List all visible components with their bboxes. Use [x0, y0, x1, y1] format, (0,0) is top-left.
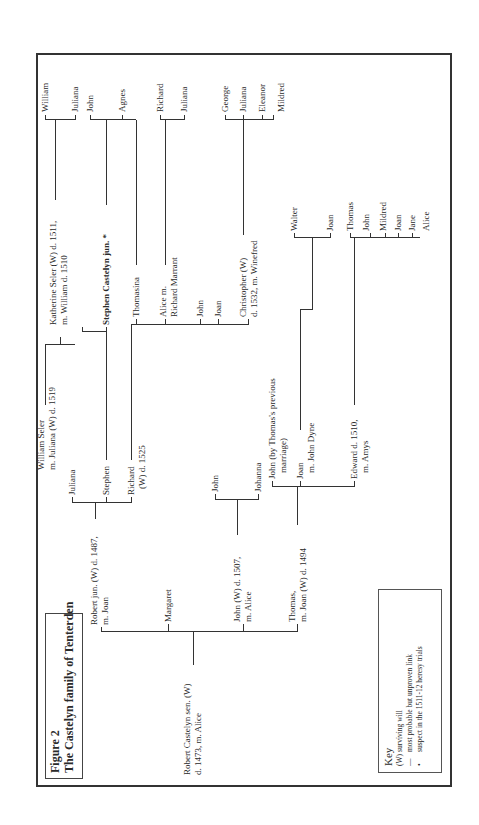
connector [106, 120, 107, 205]
person-john-1507: John (W) d. 1507, m. Alice [232, 557, 253, 622]
connector [398, 233, 399, 238]
person-jane-e: Jane [407, 215, 418, 231]
person-joan-dyne: Joan m. John Dyne [295, 423, 316, 479]
connector [258, 494, 259, 500]
genealogy-page: Figure 2 The Castelyn family of Tenterde… [0, 0, 479, 825]
connector [370, 233, 371, 238]
person-thomas: Thomas, m. Joan (W) d. 1494 [287, 548, 308, 622]
connector [300, 481, 301, 487]
person-eleanor: Eleanor [257, 84, 268, 112]
connector [72, 502, 131, 503]
key-item-link: —most probable but unproven link [405, 596, 415, 766]
connector [136, 120, 137, 265]
figure-title: The Castelyn family of Tenterden [62, 619, 76, 773]
connector [55, 120, 56, 200]
connector [165, 120, 166, 265]
person-thomasina: Thomasina [131, 277, 142, 317]
person-walter: Walter [289, 207, 300, 231]
connector [75, 115, 76, 120]
connector [106, 332, 107, 460]
connector [72, 497, 73, 503]
person-joan-d: Joan [325, 215, 336, 232]
connector [184, 115, 185, 120]
person-christopher: Christopher (W) d. 1532, m. Winefred [238, 241, 259, 317]
connector [243, 115, 244, 120]
connector [237, 500, 238, 535]
connector [131, 324, 248, 325]
connector [312, 238, 313, 310]
connector [101, 627, 102, 632]
person-mildred-e: Mildred [378, 202, 389, 231]
connector [90, 119, 122, 120]
connector [60, 337, 61, 345]
connector [193, 632, 194, 665]
person-stephen-castelyn-jun: Stephen Castelyn jun. * [101, 234, 112, 325]
person-katherine-seler: Katherine Seler (W) d. 1511, m. William … [48, 221, 69, 325]
connector [82, 327, 83, 332]
key-item-suspect: •suspect in the 1511-12 heresy trials [415, 596, 425, 766]
connector [200, 319, 201, 325]
person-john: John [195, 300, 206, 317]
dash-symbol: — [405, 752, 415, 766]
connector [297, 624, 298, 632]
person-george: George [220, 86, 231, 112]
bullet-symbol: • [415, 752, 425, 766]
person-juliana-c: Juliana [238, 87, 249, 113]
connector [350, 233, 351, 238]
person-william: William [40, 83, 51, 112]
connector [106, 497, 107, 503]
person-agnes: Agnes [117, 89, 128, 112]
connector [354, 481, 355, 487]
connector [45, 119, 75, 120]
person-johanna: Johanna [253, 463, 264, 493]
connector [272, 481, 273, 487]
connector [330, 233, 331, 238]
key-box: Key (W)surviving will —most probable but… [378, 589, 442, 773]
person-juliana: Juliana [67, 470, 78, 496]
connector [122, 119, 136, 120]
connector [168, 624, 169, 632]
connector [165, 319, 166, 325]
connector [272, 486, 354, 487]
connector [225, 119, 273, 120]
connector [412, 233, 413, 238]
key-item-will: (W)surviving will [395, 596, 405, 766]
figure-title-box: Figure 2 The Castelyn family of Tenterde… [45, 613, 83, 779]
connector [45, 115, 46, 120]
connector [160, 119, 184, 120]
connector [215, 494, 216, 500]
person-thomas-e: Thomas [345, 202, 356, 231]
person-mildred-c: Mildred [276, 83, 287, 112]
person-joan: Joan [213, 301, 224, 318]
person-john-son: John [210, 475, 221, 492]
connector [273, 115, 274, 120]
connector [243, 120, 244, 235]
connector [82, 331, 106, 332]
connector [248, 319, 249, 325]
connector [385, 233, 386, 238]
will-symbol: (W) [395, 752, 405, 766]
key-title: Key [382, 596, 395, 766]
connector [294, 233, 295, 238]
connector [106, 327, 107, 332]
person-robert-sen: Robert Castelyn sen. (W) d. 1473, m. Ali… [182, 684, 203, 775]
person-margaret: Margaret [163, 589, 174, 622]
connector [225, 115, 226, 120]
person-richard: Richard (W) d. 1525 [126, 445, 147, 495]
connector [136, 319, 137, 325]
person-john-s: John [85, 95, 96, 112]
person-edward: Edward d. 1510, m. Amys [349, 420, 370, 480]
connector [131, 497, 132, 503]
person-richard-a: Richard [155, 84, 166, 113]
person-john-e: John [361, 214, 372, 231]
connector [354, 238, 355, 405]
connector [131, 325, 132, 460]
person-robert-jun: Robert jun. (W) d. 1487, m. Joan [89, 536, 110, 625]
person-juliana-a: Juliana [179, 87, 190, 113]
connector [218, 319, 219, 325]
person-juliana-k: Juliana [70, 87, 81, 113]
person-william-seler: William Seler m. Juliana (W) d. 1519 [36, 387, 57, 470]
connector [45, 345, 46, 405]
connector [101, 631, 297, 632]
person-john-prev: John (by Thomas's previous marriage) [267, 378, 288, 479]
